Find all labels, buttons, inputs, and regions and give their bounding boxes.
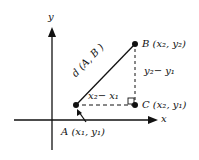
point-a-label: A (x₁, y₁) — [61, 127, 105, 137]
point-a — [73, 102, 79, 108]
point-c — [132, 102, 138, 108]
vertical-diff-label: y₂− y₁ — [144, 66, 175, 76]
x-axis — [14, 116, 158, 124]
distance-diagram: y x B (x₂, y₂) C (x₂, y₁) A (x₁, y₁) y₂−… — [0, 0, 199, 160]
y-axis — [48, 27, 56, 150]
point-c-label: C (x₂, y₁) — [142, 100, 186, 110]
y-axis-label: y — [48, 12, 54, 22]
point-b-label: B (x₂, y₂) — [142, 39, 186, 49]
x-axis-label: x — [161, 114, 167, 124]
point-b — [132, 41, 138, 47]
horizontal-diff-label: x₂− x₁ — [88, 91, 119, 101]
